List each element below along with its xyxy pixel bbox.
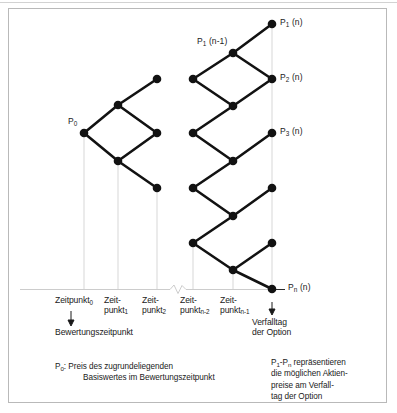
node-label-p1n: P1 (n) bbox=[280, 18, 303, 28]
figure-root: P0 P1 (n) P1 (n-1) P2 (n) P3 (n) Pn (n) … bbox=[0, 0, 397, 413]
node-r2f bbox=[268, 285, 277, 294]
node-r1d bbox=[229, 212, 238, 221]
node-r0a bbox=[189, 75, 198, 84]
legend-note-pn-line2: die möglichen Aktien- bbox=[271, 368, 386, 379]
node-n2u bbox=[153, 75, 162, 84]
node-r0c bbox=[189, 184, 198, 193]
node-r2d bbox=[268, 184, 277, 193]
edge-n1u-n2u bbox=[118, 79, 157, 105]
edge-r1e-r2e bbox=[233, 243, 272, 270]
node-n2d bbox=[153, 184, 162, 193]
legend-note-p0: P0: Preis des zugrundeliegenden Basiswer… bbox=[55, 361, 269, 384]
axis-tick-label-1-line2: punkt1 bbox=[104, 306, 128, 316]
node-r1c bbox=[229, 157, 238, 166]
lattice-edges-right bbox=[193, 24, 272, 289]
edge-n0-n1u bbox=[84, 105, 118, 133]
legend-note-pn: P1-Pn repräsentieren die möglichen Aktie… bbox=[271, 357, 386, 402]
edge-r1a-r2a bbox=[233, 24, 272, 53]
node-p0 bbox=[80, 129, 89, 138]
axis-tick-label-2-line2: punkt2 bbox=[142, 306, 166, 316]
axis-tick-label-n-2: Zeit- punktn-2 bbox=[180, 296, 209, 316]
node-label-p1n-minus-1: P1 (n-1) bbox=[197, 37, 227, 47]
node-n1d bbox=[114, 157, 123, 166]
node-label-p2n: P2 (n) bbox=[280, 73, 303, 83]
node-n1u bbox=[114, 101, 123, 110]
node-r1e bbox=[229, 266, 238, 275]
node-r0d bbox=[189, 239, 198, 248]
binomial-lattice-diagram bbox=[0, 0, 397, 413]
node-r1a bbox=[229, 49, 238, 58]
edge-r1b-r2b bbox=[233, 79, 272, 106]
node-label-p3n: P3 (n) bbox=[280, 127, 303, 137]
node-r2e bbox=[268, 239, 277, 248]
edge-r1c-r2c bbox=[233, 133, 272, 161]
edge-r1a-r2b bbox=[233, 53, 272, 79]
edge-r0b-r1b bbox=[193, 106, 233, 133]
axis-tick-label-n-1-line2: punktn-1 bbox=[220, 306, 249, 316]
legend-note-pn-line4: tag der Option bbox=[271, 391, 386, 402]
arrow-verfalltag-head bbox=[269, 309, 275, 315]
node-r1b bbox=[229, 102, 238, 111]
edge-n1d-n2m bbox=[118, 133, 157, 161]
edge-r0d-r1e bbox=[193, 243, 233, 270]
axis-break-zigzag bbox=[170, 285, 186, 294]
arrow-bewertung-head bbox=[68, 320, 74, 326]
annotation-verfalltag: Verfalltag der Option bbox=[252, 318, 291, 338]
edge-n0-n1d bbox=[84, 133, 118, 161]
edge-r0a-r1a bbox=[193, 53, 233, 79]
edge-n1u-n2m bbox=[118, 105, 157, 133]
annotation-verfalltag-line2: der Option bbox=[252, 328, 291, 338]
edge-r1d-r2d bbox=[233, 188, 272, 216]
legend-note-pn-line3: preise am Verfall- bbox=[271, 380, 386, 391]
node-label-p0: P0 bbox=[68, 117, 77, 127]
edge-r0b-r1c bbox=[193, 133, 233, 161]
axis-tick-label-1: Zeit- punkt1 bbox=[104, 296, 128, 316]
edge-n1d-n2d bbox=[118, 161, 157, 188]
edge-r1e-r2f bbox=[233, 270, 272, 289]
axis-tick-label-n-2-line2: punktn-2 bbox=[180, 306, 209, 316]
axis-tick-label-0-line1: Zeitpunkt0 bbox=[55, 296, 93, 306]
axis-tick-label-0: Zeitpunkt0 bbox=[55, 296, 93, 306]
node-label-pnn: Pn (n) bbox=[288, 283, 311, 293]
annotation-bewertungszeitpunkt: Bewertungszeitpunkt bbox=[55, 328, 133, 338]
edge-r0c-r1d bbox=[193, 188, 233, 216]
legend-note-pn-line1: P1-Pn repräsentieren bbox=[271, 357, 386, 368]
axis-tick-label-n-1: Zeit- punktn-1 bbox=[220, 296, 249, 316]
node-r2a bbox=[268, 20, 277, 29]
node-r2c bbox=[268, 129, 277, 138]
edge-r0c-r1c bbox=[193, 161, 233, 188]
node-r2b bbox=[268, 75, 277, 84]
legend-note-p0-line1: P0: Preis des zugrundeliegenden bbox=[69, 361, 269, 372]
legend-note-p0-line2: Basiswertes im Bewertungszeitpunkt bbox=[69, 372, 269, 383]
edge-r0d-r1d bbox=[193, 216, 233, 243]
node-n2m bbox=[153, 129, 162, 138]
axis-tick-label-2: Zeit- punkt2 bbox=[142, 296, 166, 316]
node-r0b bbox=[189, 129, 198, 138]
edge-r0a-r1b bbox=[193, 79, 233, 106]
time-axis bbox=[20, 285, 285, 294]
lattice-edges-left bbox=[84, 79, 157, 188]
